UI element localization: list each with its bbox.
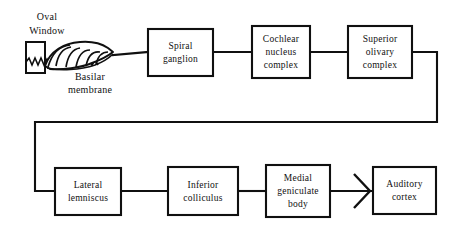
- diagram-canvas: Oval Window Basilar membrane Spiral gang…: [0, 0, 452, 232]
- auditory-pathway-diagram: Oval Window Basilar membrane Spiral gang…: [0, 0, 452, 232]
- cochlea-illustration: [26, 42, 113, 73]
- node-label-medial-geniculate-line3: body: [288, 199, 308, 209]
- node-superior-olivary-complex[interactable]: Superior olivary complex: [348, 26, 412, 78]
- node-label-medial-geniculate-line1: Medial: [284, 173, 313, 183]
- node-label-lateral-lemniscus-line1: Lateral: [74, 180, 103, 190]
- node-label-cochlear-nucleus-line2: nucleus: [266, 47, 297, 57]
- node-label-spiral-ganglion-line2: ganglion: [163, 54, 198, 64]
- node-label-superior-olivary-line2: olivary: [366, 47, 395, 57]
- node-box-auditory-cortex[interactable]: [373, 167, 436, 214]
- node-label-auditory-cortex-line1: Auditory: [386, 179, 422, 189]
- connector-cochlea-to-spiral-ganglion: [113, 52, 148, 55]
- node-box-lateral-lemniscus[interactable]: [55, 168, 121, 215]
- basilar-membrane-label-line2: membrane: [68, 84, 113, 95]
- node-label-lateral-lemniscus-line2: lemniscus: [68, 193, 108, 203]
- cochlea-body: [45, 42, 113, 69]
- node-cochlear-nucleus-complex[interactable]: Cochlear nucleus complex: [252, 26, 310, 78]
- node-spiral-ganglion[interactable]: Spiral ganglion: [148, 29, 213, 76]
- node-box-inferior-colliculus[interactable]: [168, 167, 238, 215]
- node-inferior-colliculus[interactable]: Inferior colliculus: [168, 167, 238, 215]
- node-label-inferior-colliculus-line1: Inferior: [187, 180, 219, 190]
- node-auditory-cortex[interactable]: Auditory cortex: [373, 167, 436, 214]
- node-label-cochlear-nucleus-line1: Cochlear: [263, 34, 300, 44]
- node-label-inferior-colliculus-line2: colliculus: [183, 193, 222, 203]
- node-lateral-lemniscus[interactable]: Lateral lemniscus: [55, 168, 121, 215]
- node-label-superior-olivary-line1: Superior: [363, 34, 398, 44]
- basilar-membrane-label-line1: Basilar: [75, 71, 105, 82]
- node-label-cochlear-nucleus-line3: complex: [264, 60, 298, 70]
- node-label-spiral-ganglion-line1: Spiral: [168, 41, 192, 51]
- oval-window-label-line1: Oval: [37, 11, 57, 22]
- node-label-medial-geniculate-line2: geniculate: [277, 186, 319, 196]
- node-label-auditory-cortex-line2: cortex: [392, 192, 417, 202]
- oval-window-label-line2: Window: [29, 25, 65, 36]
- node-label-superior-olivary-line3: complex: [363, 60, 397, 70]
- node-box-spiral-ganglion[interactable]: [148, 29, 213, 76]
- node-medial-geniculate-body[interactable]: Medial geniculate body: [266, 165, 330, 217]
